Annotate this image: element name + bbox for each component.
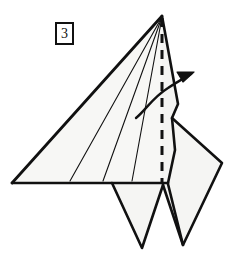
step-number-label: 3 [61, 26, 68, 40]
origami-figure [0, 0, 237, 263]
origami-diagram: 3 [0, 0, 237, 263]
step-number-badge: 3 [55, 22, 74, 45]
